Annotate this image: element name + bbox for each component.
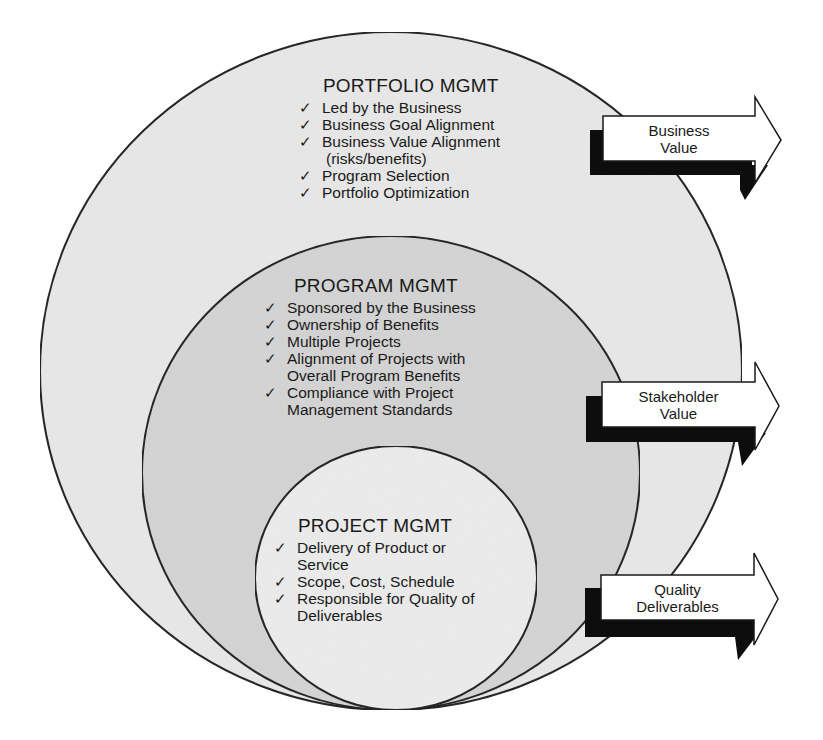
project-block: PROJECT MGMT ✓Delivery of Product orServ…	[270, 515, 474, 624]
quality-deliverables-label: Quality Deliverables	[601, 581, 754, 615]
checkmark-icon: ✓	[274, 539, 287, 556]
checkmark-icon: ✓	[299, 99, 312, 116]
checkmark-icon: ✓	[274, 573, 287, 590]
list-item: ✓Compliance with ProjectManagement Stand…	[260, 384, 476, 418]
list-item: ✓Multiple Projects	[260, 333, 476, 350]
list-item: ✓Ownership of Benefits	[260, 316, 476, 333]
business-value-label: Business Value	[603, 122, 755, 156]
checkmark-icon: ✓	[299, 133, 312, 150]
portfolio-block: PORTFOLIO MGMT ✓Led by the Business ✓Bus…	[295, 75, 500, 201]
checkmark-icon: ✓	[299, 167, 312, 184]
program-title: PROGRAM MGMT	[294, 275, 476, 297]
stakeholder-value-label: Stakeholder Value	[602, 388, 755, 422]
program-block: PROGRAM MGMT ✓Sponsored by the Business …	[260, 275, 476, 418]
checkmark-icon: ✓	[274, 590, 287, 607]
program-list: ✓Sponsored by the Business ✓Ownership of…	[260, 299, 476, 418]
checkmark-icon: ✓	[264, 333, 277, 350]
checkmark-icon: ✓	[264, 299, 277, 316]
list-item: ✓Alignment of Projects withOverall Progr…	[260, 350, 476, 384]
list-item: ✓Led by the Business	[295, 99, 500, 116]
list-item: ✓Business Goal Alignment	[295, 116, 500, 133]
list-item: ✓Delivery of Product orService	[270, 539, 474, 573]
list-item: ✓Program Selection	[295, 167, 500, 184]
list-item: ✓Sponsored by the Business	[260, 299, 476, 316]
project-list: ✓Delivery of Product orService ✓Scope, C…	[270, 539, 474, 624]
list-item: ✓Scope, Cost, Schedule	[270, 573, 474, 590]
checkmark-icon: ✓	[299, 184, 312, 201]
checkmark-icon: ✓	[264, 384, 277, 401]
checkmark-icon: ✓	[264, 350, 277, 367]
list-item: ✓Business Value Alignment(risks/benefits…	[295, 133, 500, 167]
checkmark-icon: ✓	[299, 116, 312, 133]
list-item: ✓Responsible for Quality ofDeliverables	[270, 590, 474, 624]
project-title: PROJECT MGMT	[298, 515, 474, 537]
checkmark-icon: ✓	[264, 316, 277, 333]
portfolio-list: ✓Led by the Business ✓Business Goal Alig…	[295, 99, 500, 201]
list-item: ✓Portfolio Optimization	[295, 184, 500, 201]
portfolio-title: PORTFOLIO MGMT	[323, 75, 500, 97]
